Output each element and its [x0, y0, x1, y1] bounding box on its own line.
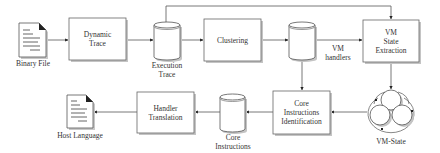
binary-file-label: Binary File	[12, 59, 54, 68]
edge-exectrace-to-vmstateextraction	[166, 6, 391, 23]
core-instructions-identification-label-line1: Core	[294, 99, 309, 108]
core-instructions-identification-label-line3: Identification	[281, 117, 321, 126]
handler-translation-label: Handler Translation	[137, 92, 194, 133]
vm-handlers-label-line1: VM	[318, 44, 358, 53]
execution-trace-label: Execution Trace	[147, 61, 187, 79]
core-instructions-label-line2: Instructions	[212, 142, 254, 151]
handler-translation-label-line1: Handler	[153, 104, 177, 113]
vm-state-label: VM-State	[371, 137, 411, 146]
vm-handlers-database-icon	[289, 22, 317, 62]
core-instructions-label: Core Instructions	[212, 133, 254, 151]
execution-trace-label-line2: Trace	[147, 70, 187, 79]
vm-handlers-label-line2: handlers	[318, 53, 358, 62]
core-instructions-identification-label: Core Instructions Identification	[273, 91, 330, 134]
host-language-label: Host Language	[52, 131, 108, 140]
handler-translation-label-line2: Translation	[149, 113, 183, 122]
core-instructions-identification-label-line2: Instructions	[284, 108, 319, 117]
vm-state-extraction-label: VM State Extraction	[363, 20, 419, 62]
vm-state-cycle-icon	[368, 90, 414, 133]
execution-trace-label-line1: Execution	[147, 61, 187, 70]
dynamic-trace-label: Dynamic Trace	[69, 18, 126, 60]
vm-state-extraction-label-line2: State	[384, 37, 399, 46]
host-language-document-icon	[67, 95, 95, 130]
execution-trace-database-icon	[154, 22, 182, 62]
vm-handlers-label: VM handlers	[318, 44, 358, 62]
clustering-label-text: Clustering	[217, 36, 248, 45]
clustering-label: Clustering	[204, 19, 261, 61]
dynamic-trace-label-line2: Trace	[89, 39, 106, 48]
core-instructions-label-line1: Core	[212, 133, 254, 142]
dynamic-trace-label-line1: Dynamic	[84, 30, 112, 39]
binary-file-document-icon	[19, 23, 48, 59]
vm-state-extraction-label-line1: VM	[385, 28, 397, 37]
vm-state-extraction-label-line3: Extraction	[375, 46, 406, 55]
core-instructions-database-icon	[220, 94, 247, 134]
